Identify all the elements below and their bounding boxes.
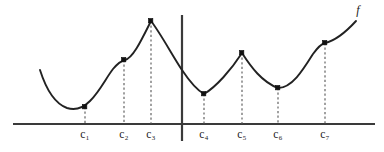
tick-label-c5: c₅ bbox=[237, 128, 247, 140]
tick-label-c2: c₂ bbox=[119, 128, 129, 140]
marker-c5 bbox=[240, 51, 244, 55]
marker-c6 bbox=[276, 86, 280, 90]
marker-c7 bbox=[323, 41, 327, 45]
tick-label-c3-text: c₃ bbox=[146, 128, 156, 140]
tick-label-c1: c₁ bbox=[80, 128, 90, 140]
tick-label-c7-text: c₇ bbox=[320, 128, 330, 140]
marker-c3 bbox=[149, 19, 153, 23]
tick-label-c5-text: c₅ bbox=[237, 128, 247, 140]
tick-label-c6: c₆ bbox=[273, 128, 283, 140]
tick-label-c7: c₇ bbox=[320, 128, 330, 140]
marker-c2 bbox=[122, 58, 126, 62]
tick-label-c4-text: c₄ bbox=[199, 128, 209, 140]
tick-label-c4: c₄ bbox=[199, 128, 209, 140]
marker-c4 bbox=[202, 92, 206, 96]
droplines-group bbox=[85, 21, 325, 124]
marker-c1 bbox=[83, 105, 87, 109]
tick-label-c2-text: c₂ bbox=[119, 128, 129, 140]
curve-label-text: f bbox=[356, 3, 359, 17]
function-graph-figure: f c₁ c₂ c₃ c₄ c₅ c₆ c₇ bbox=[0, 0, 384, 152]
tick-label-c3: c₃ bbox=[146, 128, 156, 140]
tick-label-c1-text: c₁ bbox=[80, 128, 90, 140]
tick-label-c6-text: c₆ bbox=[273, 128, 283, 140]
function-curve bbox=[40, 21, 356, 109]
curve-label-f: f bbox=[356, 3, 359, 18]
